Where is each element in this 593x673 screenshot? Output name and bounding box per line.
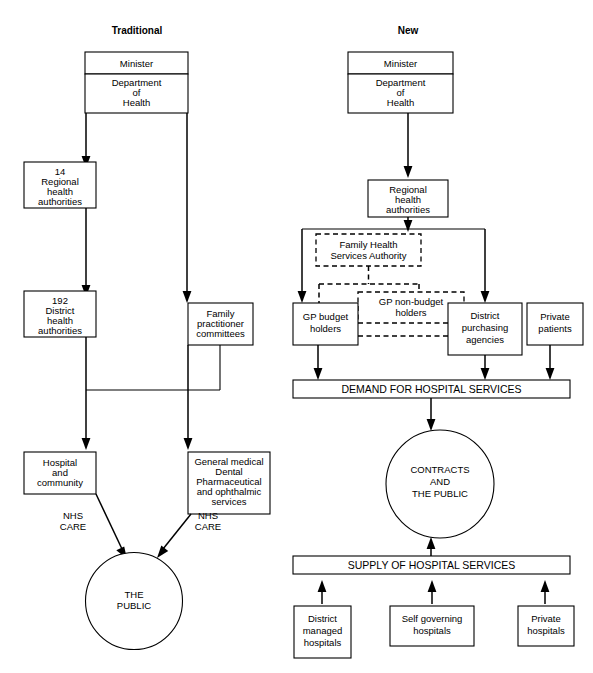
node-hospital-and-community-left: Hospital and community [24, 452, 96, 494]
node-district-managed-label-3: hospitals [304, 637, 342, 648]
arrowhead-private-patients-to-demand [546, 368, 555, 380]
node-rha-left-label-4: authorities [38, 196, 82, 207]
node-gp-budget-label-2: holders [310, 323, 341, 334]
node-private-patients-label-2: patients [538, 323, 572, 334]
node-contracts-label-2: AND [430, 476, 450, 487]
edge-label-nhs-care-left-1: NHS [63, 510, 83, 521]
node-regional-health-authorities-right: Regional health authorities [368, 180, 448, 217]
node-district-managed-hospitals: District managed hospitals [294, 606, 351, 658]
arrowhead-gp-budget-to-demand [314, 368, 323, 380]
node-private-hospitals-label-1: Private [531, 613, 561, 624]
node-dpa-label-3: agencies [466, 334, 504, 345]
arrowhead-district-managed-to-supply [318, 580, 327, 592]
node-minister-dept-right: Minister Department of Health [348, 52, 453, 113]
arrowhead-rha-to-bracket-right [404, 220, 413, 232]
node-dpa-label-2: purchasing [462, 322, 508, 333]
node-rha-right-label-3: authorities [386, 204, 430, 215]
arrowhead-dpa-to-demand [481, 368, 490, 380]
node-private-patients: Private patients [527, 303, 583, 345]
arrowhead-demand-to-contracts [427, 419, 436, 431]
node-demand-bar: DEMAND FOR HOSPITAL SERVICES [293, 380, 570, 398]
node-district-managed-label-1: District [308, 613, 337, 624]
node-district-health-authorities-left: 192 District health authorities [24, 291, 96, 337]
node-demand-bar-label: DEMAND FOR HOSPITAL SERVICES [341, 383, 521, 395]
edge-label-nhs-care-right-1: NHS [198, 510, 218, 521]
arrowhead-private-hospitals-to-supply [541, 580, 550, 592]
panel-title-traditional: Traditional [112, 25, 163, 36]
arrowhead-doh-to-rha-right [404, 166, 413, 178]
node-contracts-label-3: THE PUBLIC [412, 488, 468, 499]
node-fhsa-label-2: Services Authority [330, 250, 406, 261]
node-gp-budget-label-1: GP budget [303, 311, 349, 322]
node-district-purchasing-agencies: District purchasing agencies [448, 303, 522, 355]
arrowhead-self-governing-to-supply [428, 580, 437, 592]
node-family-practitioner-committees-left: Family practitioner committees [188, 303, 253, 345]
node-gp-non-budget-label-2: holders [395, 307, 426, 318]
arrowhead-gms-to-public-left [157, 546, 168, 559]
node-the-public-label-2: PUBLIC [117, 600, 151, 611]
node-self-governing-label-1: Self governing [402, 613, 463, 624]
node-contracts-label-1: CONTRACTS [410, 464, 469, 475]
connector-gms-to-public-left [163, 514, 191, 549]
panel-new: New Minister Department of Health Region… [293, 25, 583, 658]
arrowhead-fpc-to-gms-left [184, 438, 193, 450]
arrowhead-supply-to-contracts [427, 537, 436, 549]
nhs-structure-diagram: Traditional Minister Department of Healt… [0, 0, 593, 673]
node-contracts-circle: CONTRACTS AND THE PUBLIC [386, 430, 494, 538]
node-private-hospitals-label-2: hospitals [527, 625, 565, 636]
node-minister-dept-left: Minister Department of Health [85, 52, 188, 113]
node-dha-left-label-4: authorities [38, 325, 82, 336]
node-dpa-label-1: District [470, 310, 499, 321]
node-family-health-services-authority: Family Health Services Authority [316, 234, 421, 266]
node-district-managed-label-2: managed [303, 625, 343, 636]
edge-label-nhs-care-left-2: CARE [60, 521, 86, 532]
node-gp-budget-holders: GP budget holders [293, 303, 358, 345]
arrowhead-bracket-to-dpa [481, 291, 490, 303]
node-minister-left-label: Minister [120, 58, 153, 69]
node-self-governing-hospitals: Self governing hospitals [390, 606, 474, 646]
node-minister-right-label: Minister [384, 58, 417, 69]
node-gms-label-5: services [212, 496, 247, 507]
node-hospital-community-label-3: community [37, 477, 83, 488]
node-private-patients-label-1: Private [540, 311, 570, 322]
node-supply-bar-label: SUPPLY OF HOSPITAL SERVICES [348, 559, 515, 571]
node-regional-health-authorities-left: 14 Regional health authorities [24, 162, 96, 208]
node-gp-non-budget-label-1: GP non-budget [379, 296, 444, 307]
node-the-public-label-1: THE [125, 589, 144, 600]
connector-hospital-to-public-left [96, 494, 122, 549]
node-general-medical-services-left: General medical Dental Pharmaceutical an… [188, 452, 270, 514]
node-department-of-health-left-label-3: Health [123, 97, 150, 108]
node-fhsa-label-1: Family Health [339, 239, 397, 250]
arrowhead-bracket-to-gp-budget [298, 291, 307, 303]
arrowhead-dha-to-hospital-left [82, 438, 91, 450]
node-department-of-health-right-label-3: Health [387, 97, 414, 108]
node-supply-bar: SUPPLY OF HOSPITAL SERVICES [293, 556, 570, 574]
edge-label-nhs-care-right-2: CARE [195, 521, 221, 532]
panel-traditional: Traditional Minister Department of Healt… [24, 25, 270, 650]
node-fpc-left-label-3: committees [196, 328, 245, 339]
node-the-public-circle-left: THE PUBLIC [86, 553, 183, 650]
panel-title-new: New [398, 25, 419, 36]
node-self-governing-label-2: hospitals [413, 625, 451, 636]
arrowhead-doh-to-fpc-left [183, 291, 192, 303]
node-private-hospitals: Private hospitals [518, 606, 574, 646]
